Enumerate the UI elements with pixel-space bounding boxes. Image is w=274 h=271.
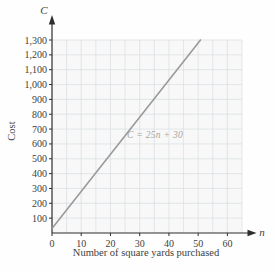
y-tick-label: 1,200 — [25, 49, 48, 60]
x-tick-label: 0 — [50, 238, 55, 249]
y-tick-label: 900 — [32, 94, 47, 105]
y-axis-title: Cost — [6, 121, 17, 140]
y-tick-label: 600 — [32, 138, 47, 149]
y-tick-label: 1,100 — [25, 64, 48, 75]
x-axis-variable-label: n — [259, 226, 265, 238]
y-tick-label: 1,000 — [25, 79, 48, 90]
y-tick-label: 300 — [32, 183, 47, 194]
y-tick-label: 200 — [32, 198, 47, 209]
x-axis-arrow-icon — [248, 230, 257, 236]
y-tick-label: 800 — [32, 109, 47, 120]
cost-line-chart-figure: 0102030405060100200300400500600700800900… — [0, 0, 274, 271]
y-tick-label: 500 — [32, 153, 47, 164]
y-tick-label: 1,300 — [25, 35, 48, 46]
y-tick-label: 700 — [32, 124, 47, 135]
line-equation-label: C = 25n + 30 — [127, 130, 183, 140]
y-tick-label: 100 — [32, 213, 47, 224]
y-tick-label: 400 — [32, 168, 47, 179]
y-axis-variable-label: C — [40, 4, 47, 16]
x-tick-label: 60 — [222, 238, 232, 249]
y-axis-arrow-icon — [49, 15, 55, 25]
x-axis-title: Number of square yards purchased — [73, 247, 219, 258]
